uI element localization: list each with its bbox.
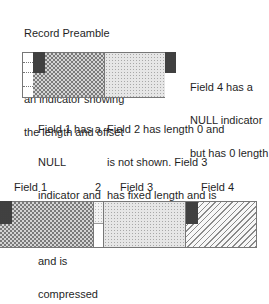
preamble-divider bbox=[23, 86, 33, 87]
text-line: Field 4 has a bbox=[190, 82, 268, 93]
field-1-null-indicator bbox=[33, 52, 45, 73]
logical-field-1 bbox=[0, 201, 93, 248]
logical-field-2-indicator bbox=[94, 202, 103, 224]
logical-field-4-null-indicator bbox=[186, 202, 198, 224]
stored-field-3 bbox=[104, 52, 165, 98]
label-field-4: Field 4 bbox=[201, 182, 234, 193]
preamble-divider bbox=[23, 72, 33, 73]
label-field-2: 2 bbox=[95, 182, 101, 193]
text-line: Field 2 has length 0 and bbox=[107, 124, 224, 135]
label-field-1: Field 1 bbox=[14, 182, 47, 193]
text-line: is not shown. Field 3 bbox=[107, 157, 224, 168]
logical-field-1-null-indicator bbox=[0, 201, 12, 224]
text-line: indicator and bbox=[38, 190, 103, 201]
text-line: compressed bbox=[38, 289, 103, 300]
text-line: Record Preamble bbox=[24, 28, 134, 39]
text-line: and is bbox=[38, 256, 103, 267]
preamble-divider bbox=[23, 62, 33, 63]
field-4-null-indicator bbox=[165, 52, 176, 73]
text-line: NULL bbox=[38, 157, 103, 168]
label-field-3: Field 3 bbox=[120, 182, 153, 193]
logical-field-3 bbox=[104, 201, 186, 248]
text-line: Field 1 has a bbox=[38, 124, 103, 135]
record-preamble-column bbox=[22, 52, 33, 98]
